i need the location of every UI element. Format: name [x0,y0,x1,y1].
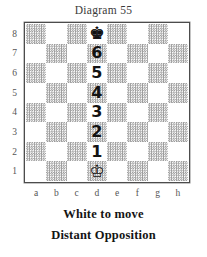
file-label-e: e [107,186,127,200]
board-square-c1[interactable] [67,161,87,181]
board-square-c7[interactable] [67,44,87,64]
board-square-d4[interactable]: 3 [87,103,107,123]
board-square-h1[interactable] [168,161,188,181]
file-label-a: a [26,186,46,200]
board-square-a2[interactable] [26,142,46,162]
board-square-f3[interactable] [127,122,147,142]
board-square-g4[interactable] [148,103,168,123]
board-square-a5[interactable] [26,83,46,103]
file-label-f: f [127,186,147,200]
board-square-h7[interactable] [168,44,188,64]
board-square-a8[interactable] [26,24,46,44]
board-square-e3[interactable] [107,122,127,142]
board-square-b2[interactable] [46,142,66,162]
board-square-g3[interactable] [148,122,168,142]
rank-label-7: 7 [8,44,21,64]
board-square-c2[interactable] [67,142,87,162]
board-square-c4[interactable] [67,103,87,123]
board-square-b4[interactable] [46,103,66,123]
square-marker-d5: 4 [87,83,107,103]
board-square-h8[interactable] [168,24,188,44]
board-square-b5[interactable] [46,83,66,103]
file-label-g: g [148,186,168,200]
board-square-c5[interactable] [67,83,87,103]
board-square-f1[interactable] [127,161,147,181]
board-square-f8[interactable] [127,24,147,44]
board-square-f4[interactable] [127,103,147,123]
board-square-c6[interactable] [67,63,87,83]
caption-line-side-to-move: White to move [0,204,207,225]
board-square-d7[interactable]: 6 [87,44,107,64]
board-square-h6[interactable] [168,63,188,83]
board-square-a4[interactable] [26,103,46,123]
caption-line-theme: Distant Opposition [0,225,207,246]
board-square-c8[interactable] [67,24,87,44]
board-square-e8[interactable] [107,24,127,44]
square-marker-d3: 2 [87,122,107,142]
board-square-b8[interactable] [46,24,66,44]
white-king-icon[interactable]: ♔ [87,161,107,181]
board-square-a7[interactable] [26,44,46,64]
rank-label-6: 6 [8,63,21,83]
square-marker-d2: 1 [87,142,107,162]
board-square-d8[interactable]: ♚ [87,24,107,44]
rank-coordinate-labels: 87654321 [8,24,21,181]
board-square-e7[interactable] [107,44,127,64]
board-squares: ♚654321♔ [26,24,188,181]
board-square-e5[interactable] [107,83,127,103]
board-square-d1[interactable]: ♔ [87,161,107,181]
board-square-g6[interactable] [148,63,168,83]
board-square-a1[interactable] [26,161,46,181]
rank-label-1: 1 [8,161,21,181]
diagram-title: Diagram 55 [0,4,207,16]
file-label-b: b [46,186,66,200]
rank-label-4: 4 [8,103,21,123]
board-square-e2[interactable] [107,142,127,162]
rank-label-8: 8 [8,24,21,44]
board-square-d6[interactable]: 5 [87,63,107,83]
rank-label-2: 2 [8,142,21,162]
board-square-g2[interactable] [148,142,168,162]
board-square-d2[interactable]: 1 [87,142,107,162]
board-square-d3[interactable]: 2 [87,122,107,142]
board-square-b6[interactable] [46,63,66,83]
board-square-b3[interactable] [46,122,66,142]
board-square-g5[interactable] [148,83,168,103]
file-label-h: h [168,186,188,200]
board-square-f5[interactable] [127,83,147,103]
board-square-e1[interactable] [107,161,127,181]
file-coordinate-labels: abcdefgh [26,186,188,200]
board-square-f7[interactable] [127,44,147,64]
diagram-caption: White to move Distant Opposition [0,204,207,245]
board-square-h4[interactable] [168,103,188,123]
rank-label-3: 3 [8,122,21,142]
file-label-d: d [87,186,107,200]
black-king-icon[interactable]: ♚ [87,24,107,44]
board-square-h3[interactable] [168,122,188,142]
square-marker-d7: 6 [87,44,107,64]
board-square-a6[interactable] [26,63,46,83]
board-square-a3[interactable] [26,122,46,142]
board-square-g1[interactable] [148,161,168,181]
chess-diagram: Diagram 55 87654321 ♚654321♔ abcdefgh Wh… [0,0,207,257]
rank-label-5: 5 [8,83,21,103]
board-square-g8[interactable] [148,24,168,44]
board-square-h5[interactable] [168,83,188,103]
file-label-c: c [67,186,87,200]
board-square-e6[interactable] [107,63,127,83]
board-square-g7[interactable] [148,44,168,64]
board-square-f2[interactable] [127,142,147,162]
square-marker-d4: 3 [87,103,107,123]
board-square-h2[interactable] [168,142,188,162]
board-square-c3[interactable] [67,122,87,142]
square-marker-d6: 5 [87,63,107,83]
board-square-e4[interactable] [107,103,127,123]
board-square-b1[interactable] [46,161,66,181]
board-square-f6[interactable] [127,63,147,83]
board-square-b7[interactable] [46,44,66,64]
chessboard: ♚654321♔ [24,22,190,183]
board-square-d5[interactable]: 4 [87,83,107,103]
